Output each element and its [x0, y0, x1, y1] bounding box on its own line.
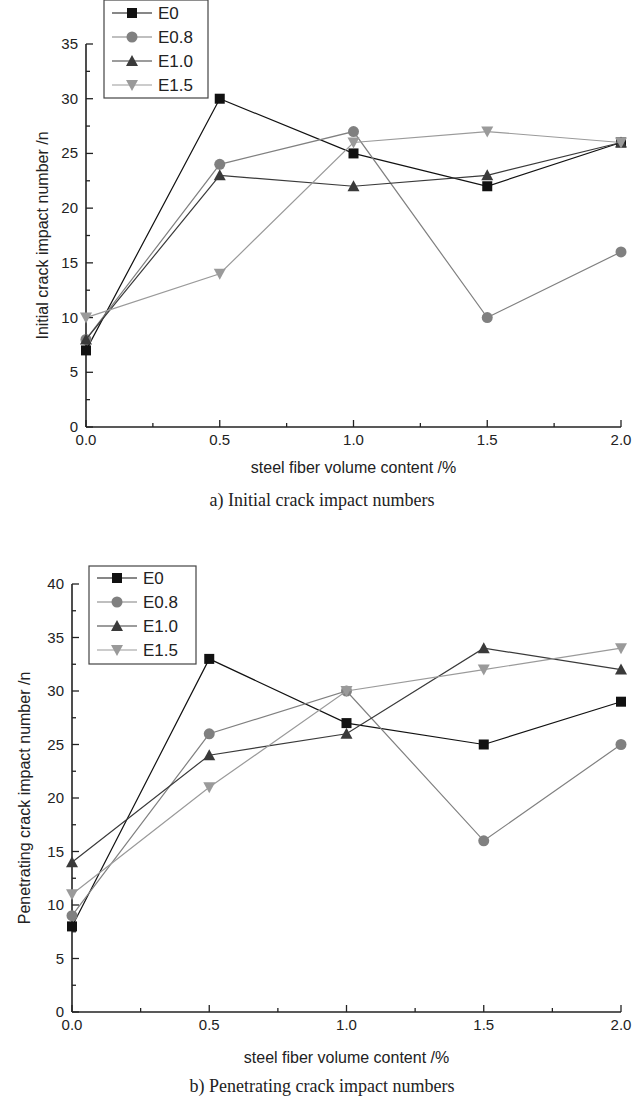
legend-label: E1.0	[143, 617, 178, 636]
series-E0-8	[81, 126, 627, 345]
x-tick-label: 1.5	[473, 1016, 494, 1033]
series-line	[72, 648, 621, 894]
legend-square-marker-icon	[127, 8, 137, 18]
x-tick-label: 0.0	[62, 1016, 83, 1033]
x-tick-label: 1.5	[477, 431, 498, 448]
y-tick-label: 25	[61, 144, 78, 161]
legend-label: E0	[158, 4, 179, 23]
legend-label: E0	[143, 569, 164, 588]
square-marker-icon	[81, 345, 91, 355]
legend-circle-marker-icon	[127, 32, 138, 43]
legend-label: E0.8	[143, 593, 178, 612]
legend: E0E0.8E1.0E1.5	[89, 566, 196, 664]
circle-marker-icon	[616, 739, 627, 750]
circle-marker-icon	[204, 728, 215, 739]
y-tick-label: 5	[70, 363, 78, 380]
figure-caption: a) Initial crack impact numbers	[210, 490, 435, 511]
triangle-up-marker-icon	[214, 169, 226, 180]
y-axis-title: Penetrating crack impact number /n	[16, 672, 33, 925]
circle-marker-icon	[478, 835, 489, 846]
x-tick-label: 0.5	[209, 431, 230, 448]
x-tick-label: 2.0	[611, 431, 632, 448]
series-line	[86, 132, 621, 318]
circle-marker-icon	[214, 159, 225, 170]
square-marker-icon	[67, 921, 77, 931]
square-marker-icon	[204, 654, 214, 664]
y-tick-label: 5	[56, 950, 64, 967]
triangle-down-marker-icon	[66, 889, 78, 900]
legend-label: E1.5	[143, 641, 178, 660]
triangle-up-marker-icon	[478, 642, 490, 653]
legend-label: E0.8	[158, 28, 193, 47]
y-tick-label: 35	[61, 35, 78, 52]
circle-marker-icon	[348, 126, 359, 137]
legend-circle-marker-icon	[112, 597, 123, 608]
x-axis-title: steel fiber volume content /%	[251, 459, 456, 476]
legend: E0E0.8E1.0E1.5	[104, 0, 208, 98]
circle-marker-icon	[67, 910, 78, 921]
y-tick-label: 10	[47, 896, 64, 913]
triangle-down-marker-icon	[203, 782, 215, 793]
x-tick-label: 0.0	[76, 431, 97, 448]
x-tick-label: 2.0	[611, 1016, 632, 1033]
legend-label: E1.5	[158, 76, 193, 95]
y-tick-label: 20	[61, 199, 78, 216]
y-tick-label: 30	[47, 682, 64, 699]
triangle-up-marker-icon	[341, 728, 353, 739]
chart-penetrating-crack: 05101520253035400.00.51.01.52.0steel fib…	[16, 566, 631, 1097]
square-marker-icon	[349, 148, 359, 158]
x-tick-label: 1.0	[343, 431, 364, 448]
y-tick-label: 30	[61, 90, 78, 107]
legend-square-marker-icon	[112, 573, 122, 583]
y-tick-label: 35	[47, 629, 64, 646]
square-marker-icon	[215, 94, 225, 104]
legend-label: E1.0	[158, 52, 193, 71]
series-line	[86, 142, 621, 339]
x-axis-title: steel fiber volume content /%	[244, 1049, 449, 1066]
y-tick-label: 40	[47, 575, 64, 592]
y-tick-label: 15	[61, 254, 78, 271]
square-marker-icon	[482, 181, 492, 191]
x-tick-label: 1.0	[336, 1016, 357, 1033]
series-E1-5	[66, 643, 627, 900]
square-marker-icon	[342, 718, 352, 728]
y-tick-label: 10	[61, 309, 78, 326]
figure-canvas: 051015202530350.00.51.01.52.0steel fiber…	[0, 0, 643, 1104]
y-tick-label: 20	[47, 789, 64, 806]
chart-initial-crack: 051015202530350.00.51.01.52.0steel fiber…	[34, 0, 631, 511]
triangle-down-marker-icon	[214, 269, 226, 280]
y-axis-title: Initial crack impact number /n	[34, 131, 51, 339]
circle-marker-icon	[482, 312, 493, 323]
x-tick-label: 0.5	[199, 1016, 220, 1033]
triangle-up-marker-icon	[66, 856, 78, 867]
y-tick-label: 25	[47, 736, 64, 753]
series-line	[72, 659, 621, 927]
circle-marker-icon	[616, 246, 627, 257]
figure-caption: b) Penetrating crack impact numbers	[190, 1076, 455, 1097]
square-marker-icon	[616, 697, 626, 707]
square-marker-icon	[479, 740, 489, 750]
y-tick-label: 15	[47, 843, 64, 860]
